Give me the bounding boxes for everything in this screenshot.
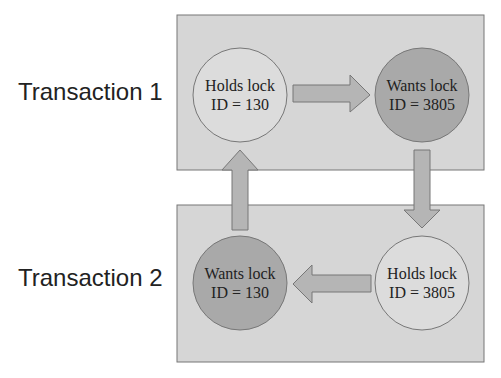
t1-holds-text: Holds lockID = 130 — [190, 76, 290, 114]
t2-wants-text: Wants lockID = 130 — [190, 264, 290, 302]
deadlock-diagram — [0, 0, 501, 378]
t1-wants-text: Wants lockID = 3805 — [372, 76, 472, 114]
t2-holds-text: Holds lockID = 3805 — [372, 264, 472, 302]
